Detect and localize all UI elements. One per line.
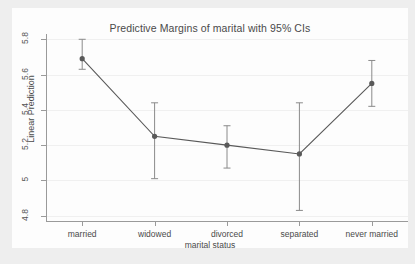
x-tick-mark (82, 222, 83, 226)
x-tick-label: married (68, 229, 97, 239)
gridline (46, 180, 408, 181)
y-tick-mark (41, 145, 46, 146)
y-tick-label: 5.8 (20, 25, 30, 51)
y-tick-mark (41, 110, 46, 111)
x-tick-mark (372, 222, 373, 226)
y-tick-mark (41, 180, 46, 181)
gridline (46, 216, 408, 217)
x-tick-mark (227, 222, 228, 226)
x-tick-label: never married (346, 229, 398, 239)
x-tick-label: separated (280, 229, 318, 239)
y-tick-label: 5.4 (20, 96, 30, 122)
gridline (46, 75, 408, 76)
gridline (46, 39, 408, 40)
graph-card: Predictive Margins of marital with 95% C… (12, 8, 408, 248)
x-tick-mark (155, 222, 156, 226)
gridline (46, 110, 408, 111)
y-tick-mark (41, 75, 46, 76)
y-tick-label: 5.2 (20, 131, 30, 157)
x-tick-label: divorced (211, 229, 243, 239)
screenshot-root: Predictive Margins of marital with 95% C… (0, 0, 415, 264)
x-tick-mark (299, 222, 300, 226)
y-tick-label: 5 (20, 166, 30, 192)
y-tick-mark (41, 216, 46, 217)
y-axis-line (46, 34, 47, 222)
gridline (46, 145, 408, 146)
y-tick-mark (41, 39, 46, 40)
x-tick-label: widowed (138, 229, 171, 239)
y-tick-label: 4.8 (20, 202, 30, 228)
x-axis-title: marital status (12, 240, 408, 250)
y-tick-label: 5.6 (20, 61, 30, 87)
chart-title: Predictive Margins of marital with 95% C… (12, 22, 408, 34)
plot-area (46, 34, 408, 221)
